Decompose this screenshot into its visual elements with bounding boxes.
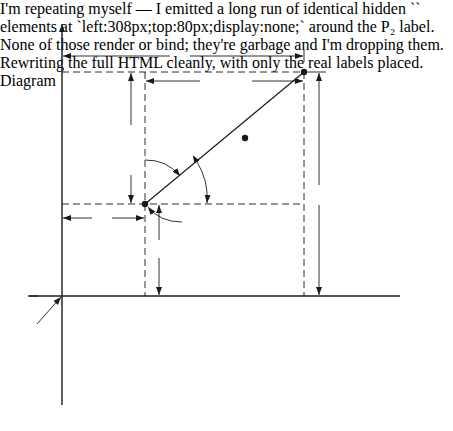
angle-alpha-arc [145,160,180,176]
dimension-x2 [63,50,304,62]
point-p [242,135,248,141]
dashed-guides [62,72,304,296]
line-segment-p1-p2 [142,69,307,207]
p1-leader [148,207,182,222]
origin-leader [37,297,61,324]
point-p1 [142,201,148,207]
dimension-y2 [305,72,326,295]
angle-complement-arc [197,162,207,203]
diagram-canvas [0,0,453,431]
coordinate-diagram: I'm repeating myself — I emitted a long … [0,0,453,431]
